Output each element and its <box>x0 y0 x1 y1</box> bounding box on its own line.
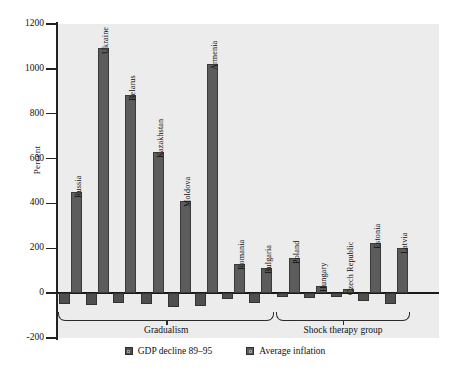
y-tick-mark <box>46 203 57 205</box>
inflation-bar <box>180 201 191 293</box>
category-label: Belarus <box>128 75 137 101</box>
y-tick-label: 1000 <box>0 63 44 73</box>
legend-label: Average inflation <box>259 346 325 356</box>
category-label: Czech Republic <box>346 242 355 295</box>
gdp-decline-bar <box>59 293 70 304</box>
category-label: Latvia <box>400 233 409 255</box>
legend-swatch <box>125 347 133 355</box>
gdp-decline-bar <box>358 293 369 301</box>
inflation-bar <box>397 248 408 293</box>
group-bracket-label: Gradualism <box>58 325 274 335</box>
inflation-bar <box>370 243 381 293</box>
category-label: Poland <box>292 241 301 264</box>
gdp-decline-bar <box>249 293 260 302</box>
category-label: Bulgaria <box>264 245 273 274</box>
y-tick-mark <box>46 113 57 115</box>
y-tick-mark <box>46 248 57 250</box>
gdp-decline-bar <box>277 293 288 297</box>
category-label: Hungary <box>319 263 328 292</box>
gdp-decline-bar <box>168 293 179 307</box>
y-tick-label: 400 <box>0 197 44 207</box>
y-tick-mark <box>46 158 57 160</box>
y-tick-label: 800 <box>0 108 44 118</box>
inflation-bar <box>98 48 109 294</box>
legend-label: GDP decline 89–95 <box>138 346 213 356</box>
gdp-decline-bar <box>385 293 396 304</box>
category-label: Romania <box>237 240 246 270</box>
category-label: Moldova <box>183 177 192 207</box>
y-tick-label: 600 <box>0 153 44 163</box>
y-tick-mark <box>46 337 57 339</box>
gdp-decline-bar <box>195 293 206 306</box>
y-tick-mark <box>46 68 57 70</box>
chart-figure: Percent 120010008006004002000-200 Russia… <box>0 0 450 370</box>
gdp-decline-bar <box>304 293 315 297</box>
category-label: Ukraine <box>101 26 110 53</box>
category-label: Estonia <box>373 223 382 248</box>
gdp-decline-bar <box>222 293 233 299</box>
inflation-bar <box>153 152 164 293</box>
y-tick-mark <box>46 292 57 294</box>
legend-item: Average inflation <box>246 346 325 356</box>
chart-legend: GDP decline 89–95Average inflation <box>0 346 450 356</box>
y-tick-label: 0 <box>0 287 44 297</box>
inflation-bar <box>125 95 136 293</box>
gdp-decline-bar <box>86 293 97 305</box>
y-tick-mark <box>46 23 57 25</box>
legend-item: GDP decline 89–95 <box>125 346 213 356</box>
y-tick-label: 200 <box>0 242 44 252</box>
gdp-decline-bar <box>331 293 342 297</box>
category-label: Armenia <box>210 41 219 70</box>
inflation-bar <box>207 64 218 293</box>
group-bracket-label: Shock therapy group <box>276 325 411 335</box>
category-label: Russia <box>74 176 83 198</box>
legend-swatch <box>246 347 254 355</box>
category-label: Kazakhstan <box>156 119 165 158</box>
inflation-bar <box>71 192 82 293</box>
gdp-decline-bar <box>113 293 124 302</box>
y-tick-label: -200 <box>0 332 44 342</box>
y-tick-label: 1200 <box>0 18 44 28</box>
gdp-decline-bar <box>141 293 152 304</box>
